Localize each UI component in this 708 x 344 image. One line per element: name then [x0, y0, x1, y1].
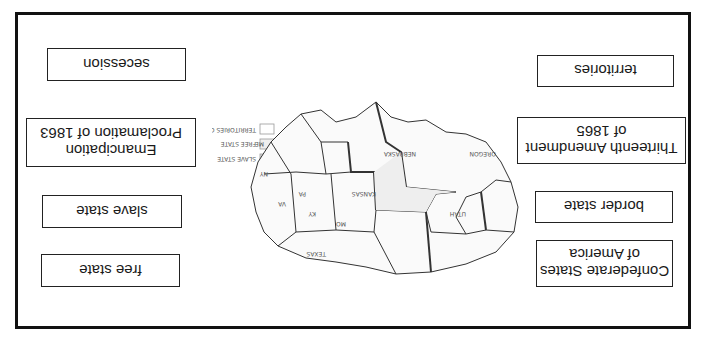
us-map-1860s: TEXAS KANSAS UTAH NEBRASKA OREGON VA KY … [246, 88, 526, 293]
svg-text:KANSAS: KANSAS [352, 191, 376, 198]
term-thirteenth-amendment[interactable]: Thirteenth Amendment of 1865 [517, 117, 686, 164]
svg-text:MO: MO [336, 221, 346, 228]
svg-text:NEBRASKA: NEBRASKA [383, 151, 416, 158]
term-free-state[interactable]: free state [41, 254, 180, 287]
term-secession[interactable]: secession [47, 48, 186, 81]
svg-text:VA: VA [277, 201, 286, 208]
svg-text:TEXAS: TEXAS [306, 251, 327, 258]
term-border-state[interactable]: border state [535, 191, 673, 223]
svg-text:PA: PA [298, 191, 306, 198]
svg-text:OREGON: OREGON [469, 151, 496, 158]
term-confederate-states[interactable]: Confederate States of America [536, 240, 673, 287]
term-territories[interactable]: territories [537, 55, 674, 87]
svg-text:UTAH: UTAH [450, 211, 466, 218]
svg-text:KY: KY [308, 211, 316, 218]
svg-text:NY: NY [260, 171, 268, 178]
term-emancipation-proclamation[interactable]: Emancipation Proclamation of 1863 [26, 118, 196, 167]
term-slave-state[interactable]: slave state [42, 195, 182, 228]
worksheet-page: secession Emancipation Proclamation of 1… [0, 0, 708, 344]
svg-text:ME: ME [255, 141, 264, 148]
